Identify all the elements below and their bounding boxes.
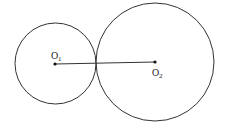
center-point-o2 bbox=[153, 60, 156, 63]
center-point-o1 bbox=[53, 62, 56, 65]
label-o2: O 2 bbox=[152, 67, 163, 80]
svg-text:1: 1 bbox=[58, 55, 62, 63]
label-o1: O 1 bbox=[51, 50, 62, 63]
center-segment bbox=[55, 62, 155, 64]
svg-text:2: 2 bbox=[159, 72, 163, 80]
tangent-circles-diagram: O 1 O 2 bbox=[0, 0, 226, 130]
